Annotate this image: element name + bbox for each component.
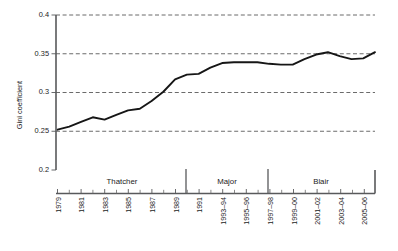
x-tick-label-1995-96: 1995–96: [243, 197, 251, 225]
period-label-thatcher: Thatcher: [107, 177, 138, 186]
y-axis-title: Gini coefficient: [15, 81, 24, 129]
axis-lines: [56, 15, 375, 194]
y-tick-label-0.25: 0.25: [35, 126, 49, 135]
y-tick-label-0.4: 0.4: [39, 10, 49, 19]
x-tick-label-2001-02: 2001–02: [314, 197, 322, 225]
x-tick-label-1989: 1989: [173, 197, 181, 213]
x-tick-label-1985: 1985: [125, 197, 133, 213]
gridlines: [56, 15, 375, 131]
x-tick-label-1993-94: 1993–94: [220, 197, 228, 225]
x-tick-label-1981: 1981: [78, 197, 86, 213]
x-tick-label-1987: 1987: [149, 197, 157, 213]
chart-container: 0.4 0.35 0.3 0.25 0.2 Gini coefficient: [0, 0, 398, 251]
x-tick-label-1991: 1991: [196, 197, 204, 213]
y-tick-label-0.2: 0.2: [39, 165, 49, 174]
x-tick-label-1997-98: 1997–98: [267, 197, 275, 225]
x-tick-label-1983: 1983: [102, 197, 110, 213]
x-tick-label-2003-04: 2003–04: [338, 197, 346, 225]
x-tick-labels: 1979 1981 1983 1985 1987 1989 1991 1993–…: [55, 197, 370, 225]
period-labels: Thatcher Major Blair: [107, 177, 330, 186]
gini-series-line: [58, 52, 376, 130]
y-tick-labels: 0.4 0.35 0.3 0.25 0.2: [35, 10, 49, 174]
x-tick-label-1999-00: 1999–00: [291, 197, 299, 225]
period-label-blair: Blair: [313, 177, 329, 186]
y-tick-label-0.3: 0.3: [39, 87, 49, 96]
x-tick-label-1979: 1979: [55, 197, 63, 213]
period-label-major: Major: [217, 177, 237, 186]
y-tick-label-0.35: 0.35: [35, 49, 49, 58]
gini-coefficient-line-chart: 0.4 0.35 0.3 0.25 0.2 Gini coefficient: [0, 0, 398, 251]
x-tick-label-2005-06: 2005–06: [361, 197, 369, 225]
